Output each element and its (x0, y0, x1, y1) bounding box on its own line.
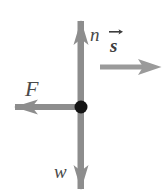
weight-force-label: w (54, 162, 67, 181)
displacement-vector-shaft (100, 65, 146, 70)
displacement-vector-label-group: s (108, 27, 130, 57)
applied-force-label: F (25, 78, 38, 100)
particle-dot (75, 101, 88, 114)
displacement-vector-label: s (110, 36, 117, 55)
free-body-diagram: n F w s (0, 0, 164, 194)
applied-force-arrow (14, 100, 83, 115)
displacement-vector-arrow (100, 59, 162, 75)
normal-force-label: n (90, 25, 100, 44)
